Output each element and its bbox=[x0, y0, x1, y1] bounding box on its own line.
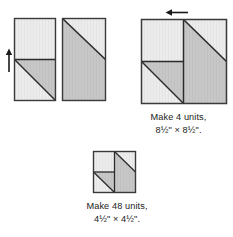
left-rect-top-light bbox=[15, 19, 56, 60]
small-left-top-light bbox=[94, 152, 115, 173]
caption-small-unit: Make 48 units, 4½" × 4½". bbox=[53, 200, 181, 225]
caption-large-line2: 8½" × 8½". bbox=[129, 124, 228, 137]
caption-large-unit: Make 4 units, 8½" × 8½". bbox=[129, 111, 228, 136]
assembled-square-small bbox=[94, 152, 136, 193]
press-arrow-up-icon bbox=[6, 49, 12, 73]
large-left-top-light bbox=[142, 20, 184, 62]
caption-large-line1: Make 4 units, bbox=[129, 111, 228, 124]
caption-small-line2: 4½" × 4½". bbox=[53, 213, 181, 226]
assembled-square-large bbox=[142, 20, 227, 104]
left-rectangle bbox=[15, 19, 56, 101]
right-rectangle bbox=[63, 19, 106, 101]
press-arrow-left-icon bbox=[166, 9, 189, 15]
caption-small-line1: Make 48 units, bbox=[53, 200, 181, 213]
quilt-diagram: Make 4 units, 8½" × 8½". Make 48 units, … bbox=[0, 0, 233, 237]
